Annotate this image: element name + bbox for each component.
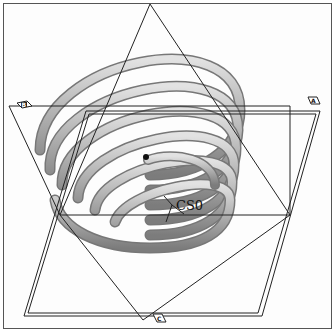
plane-tag-a[interactable]: A [308, 97, 320, 104]
spring-coils[interactable] [40, 59, 240, 248]
plane-tag-b-label: B [22, 101, 27, 108]
plane-tag-a-label: A [311, 97, 316, 104]
model-drawing: B A C CS0 [0, 0, 336, 333]
plane-tag-c[interactable]: C [153, 314, 166, 322]
cs0-label: CS0 [176, 198, 203, 213]
plane-tag-c-label: C [157, 315, 162, 322]
plane-tag-b[interactable]: B [17, 101, 32, 109]
spring-start-point[interactable] [143, 154, 149, 160]
